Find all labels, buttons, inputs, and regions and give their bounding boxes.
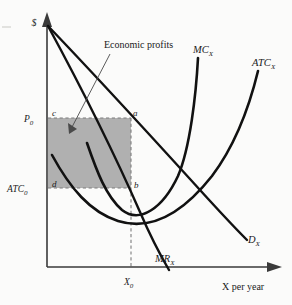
x-axis-label: X per year [222,281,265,292]
point-label-b: b [134,180,139,190]
point-label-d: d [52,179,57,189]
x-axis-arrowhead [267,262,282,272]
point-label-a: a [133,108,138,118]
y-axis-label: $ [32,17,37,28]
point-label-c: c [52,108,56,118]
x-tick-x0: X0 [123,277,134,290]
y-tick-p0: P0 [23,114,34,127]
label-demand: DX [247,234,261,248]
annotation-economic-profits: Economic profits [104,39,173,50]
y-axis-arrowhead [42,12,52,27]
scan-artifact [2,26,11,28]
y-tick-atc0: ATC0 [6,184,28,197]
label-marginal-revenue: MRX [154,253,175,267]
economics-diagram-figure: $ X per year P0 ATC0 X0 MCX ATCX DX MRX … [0,0,292,305]
diagram-canvas: $ X per year P0 ATC0 X0 MCX ATCX DX MRX … [0,0,292,305]
label-average-total-cost: ATCX [251,57,276,71]
label-marginal-cost: MCX [192,44,214,58]
